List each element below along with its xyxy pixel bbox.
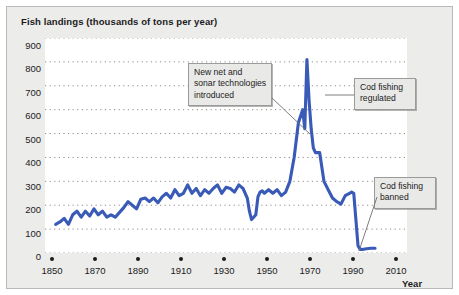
annotation-cod-banned: Cod fishing banned	[374, 177, 436, 209]
y-tick-label: 600	[7, 110, 41, 121]
x-tick-label: 1990	[342, 265, 363, 276]
x-tick-marker	[308, 257, 312, 261]
y-tick-label: 800	[7, 63, 41, 74]
annotation-line: Cod fishing	[380, 181, 430, 192]
x-tick-marker	[265, 257, 269, 261]
chart-figure: Fish landings (thousands of tons per yea…	[6, 6, 453, 289]
x-tick-marker	[136, 257, 140, 261]
y-tick-label: 400	[7, 157, 41, 168]
annotation-line: New net and	[194, 67, 266, 78]
x-tick-label: 1930	[213, 265, 234, 276]
x-tick-marker	[394, 257, 398, 261]
chart-title: Fish landings (thousands of tons per yea…	[21, 16, 217, 27]
annotation-line: Cod fishing	[360, 82, 410, 93]
x-axis-title: Year	[402, 278, 422, 289]
y-tick-label: 0	[7, 251, 41, 262]
x-tick-label: 1870	[84, 265, 105, 276]
x-tick-marker	[179, 257, 183, 261]
y-tick-label: 500	[7, 134, 41, 145]
x-tick-label: 1850	[41, 265, 62, 276]
x-tick-marker	[351, 257, 355, 261]
x-tick-marker	[50, 257, 54, 261]
annotation-new-net-sonar: New net and sonar technologies introduce…	[188, 63, 272, 106]
y-tick-label: 100	[7, 228, 41, 239]
annotation-line: introduced	[194, 90, 266, 101]
x-tick-label: 1910	[170, 265, 191, 276]
x-tick-label: 1950	[256, 265, 277, 276]
y-tick-label: 300	[7, 181, 41, 192]
x-tick-label: 2010	[385, 265, 406, 276]
x-tick-label: 1890	[127, 265, 148, 276]
annotation-cod-regulated: Cod fishing regulated	[354, 78, 416, 110]
y-tick-label: 900	[7, 40, 41, 51]
x-tick-marker	[222, 257, 226, 261]
annotation-line: banned	[380, 192, 430, 203]
y-tick-label: 700	[7, 87, 41, 98]
x-tick-marker	[93, 257, 97, 261]
y-tick-label: 200	[7, 204, 41, 215]
x-tick-label: 1970	[299, 265, 320, 276]
annotation-line: regulated	[360, 93, 410, 104]
annotation-line: sonar technologies	[194, 78, 266, 89]
